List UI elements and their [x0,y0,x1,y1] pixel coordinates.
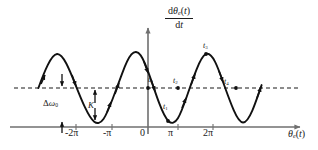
x-tick-label-neg2pi: -2π [65,128,78,138]
point-t4 [234,86,238,90]
axis-group [10,28,300,134]
flow-arrow-8 [191,74,195,85]
delta-omega-label: Δω0 [43,99,58,109]
figure-canvas [0,0,318,150]
point-t1 [166,119,170,123]
y-axis-label: dθe(t) dt [165,6,193,30]
x-tick-label-negpi: -π [103,128,111,138]
y-axis-denominator: dt [165,19,193,30]
flow-arrow-2 [72,75,76,86]
x-tick-label-2pi: 2π [203,128,213,138]
flow-arrow-9 [219,71,223,82]
x-axis-label: θe(t) [288,129,305,140]
x-tick-label-pi: π [168,128,173,138]
gain-K-label: K [88,101,94,110]
point-label-t4: t4 [224,78,229,87]
point-label-t0: t0 [148,76,153,85]
point-t3 [204,52,208,56]
flow-arrow-10 [257,87,261,98]
point-label-t1: t1 [163,103,168,112]
point-label-t2: t2 [173,77,178,86]
pll-phase-plane-figure: dθe(t) dt θe(t) -2π -π 0 π 2π Δω0 K t0 t… [0,0,318,150]
y-axis-numerator: dθe(t) [165,6,193,19]
point-t2 [176,86,180,90]
x-tick-label-zero: 0 [140,128,145,138]
point-label-t3: t3 [203,42,208,51]
point-t0 [146,86,150,90]
